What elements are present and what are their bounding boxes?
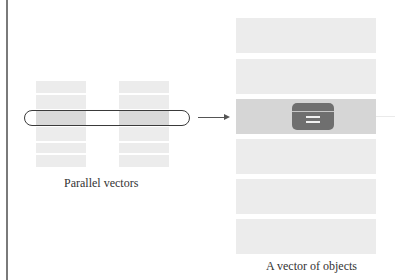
left-border-line	[6, 0, 8, 280]
object-row-4	[236, 179, 376, 214]
vector-a-row-0	[36, 81, 86, 93]
arrow-right-icon	[198, 117, 226, 118]
object-row-5	[236, 219, 376, 254]
parallel-vectors-caption: Parallel vectors	[64, 176, 138, 191]
vector-a-row-5	[36, 155, 86, 167]
vector-b-row-4	[119, 143, 169, 153]
object-card-bar	[306, 116, 320, 118]
vector-b-row-3	[119, 127, 169, 141]
object-row-0	[236, 18, 376, 53]
object-card-divider	[292, 111, 334, 112]
object-row-2	[236, 99, 376, 134]
object-card-bar	[306, 121, 320, 123]
object-card-icon	[292, 103, 334, 130]
vector-b-row-5	[119, 155, 169, 167]
vector-a-row-1	[36, 95, 86, 109]
vector-b-row-0	[119, 81, 169, 93]
vector-a-row-3	[36, 127, 86, 141]
vector-a-row-4	[36, 143, 86, 153]
row-selection-capsule	[24, 110, 190, 126]
object-row-3	[236, 139, 376, 174]
object-row-1	[236, 59, 376, 94]
vector-of-objects-caption: A vector of objects	[266, 259, 357, 274]
faint-guide-line	[376, 116, 395, 117]
vector-b-row-1	[119, 95, 169, 109]
